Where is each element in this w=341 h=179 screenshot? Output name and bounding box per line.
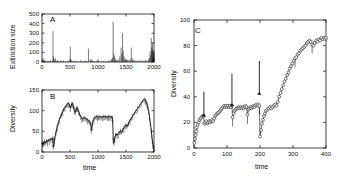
x-tick-label: 500 bbox=[65, 64, 76, 70]
panel-c: Diversity 0100200300400020406080100 C ti… bbox=[162, 2, 341, 179]
data-point bbox=[276, 100, 279, 103]
diversity-line bbox=[42, 99, 154, 148]
diversity-trend-line bbox=[194, 38, 326, 143]
panel-a: Extinction size 050010001500200001002003… bbox=[0, 6, 160, 74]
x-tick-label: 1500 bbox=[119, 154, 133, 160]
y-tick-label: 200 bbox=[29, 40, 40, 46]
data-point bbox=[280, 88, 283, 91]
arrow-head bbox=[257, 92, 261, 95]
x-tick-label: 0 bbox=[40, 64, 44, 70]
panel-c-xlabel: time bbox=[255, 163, 268, 170]
y-tick-label: 300 bbox=[29, 30, 40, 36]
data-markers bbox=[193, 36, 328, 144]
x-tick-label: 2000 bbox=[147, 64, 161, 70]
y-tick-label: 80 bbox=[183, 43, 190, 49]
y-tick-label: 400 bbox=[29, 21, 40, 27]
panel-a-tag: A bbox=[50, 15, 55, 24]
x-tick-label: 300 bbox=[288, 151, 299, 157]
x-tick-label: 1000 bbox=[91, 154, 105, 160]
y-tick-label: 0 bbox=[36, 59, 40, 65]
data-point bbox=[275, 104, 278, 107]
x-tick-label: 0 bbox=[40, 154, 44, 160]
y-tick-label: 100 bbox=[29, 108, 40, 114]
x-tick-label: 500 bbox=[65, 154, 76, 160]
data-point bbox=[194, 134, 197, 137]
y-tick-label: 60 bbox=[183, 68, 190, 74]
data-point bbox=[258, 104, 261, 107]
data-point bbox=[278, 95, 281, 98]
data-point bbox=[193, 141, 196, 144]
x-tick-label: 1000 bbox=[91, 64, 105, 70]
y-tick-label: 0 bbox=[36, 149, 40, 155]
x-tick-label: 100 bbox=[222, 151, 233, 157]
data-point bbox=[284, 77, 287, 80]
data-point bbox=[262, 118, 265, 121]
data-point bbox=[245, 106, 248, 109]
y-tick-label: 40 bbox=[183, 94, 190, 100]
data-point bbox=[287, 71, 290, 74]
extinction-spikes bbox=[43, 22, 154, 62]
panel-b: Diversity 0500100015002000050100150 B ti… bbox=[0, 80, 160, 179]
x-tick-label: 400 bbox=[321, 151, 332, 157]
x-tick-label: 1500 bbox=[119, 64, 133, 70]
panel-c-plot: 0100200300400020406080100 bbox=[162, 2, 341, 179]
figure-root: Extinction size 050010001500200001002003… bbox=[0, 0, 341, 179]
data-point bbox=[231, 116, 234, 119]
panel-b-plot: 0500100015002000050100150 bbox=[0, 80, 160, 179]
panel-a-ylabel: Extinction size bbox=[9, 24, 16, 69]
y-tick-label: 0 bbox=[187, 145, 191, 151]
data-point bbox=[279, 92, 282, 95]
y-tick-label: 50 bbox=[32, 128, 39, 134]
y-tick-label: 100 bbox=[29, 49, 40, 55]
y-tick-label: 20 bbox=[183, 119, 190, 125]
data-point bbox=[195, 130, 198, 133]
data-point bbox=[246, 113, 249, 116]
data-point bbox=[325, 36, 328, 39]
diversity-noise bbox=[42, 98, 154, 152]
x-tick-label: 200 bbox=[255, 151, 266, 157]
plot-frame bbox=[42, 14, 154, 62]
panel-b-ylabel: Diversity bbox=[9, 105, 16, 132]
panel-b-tag: B bbox=[50, 92, 55, 101]
data-point bbox=[259, 135, 262, 138]
data-point bbox=[194, 138, 197, 141]
panel-c-tag: C bbox=[195, 26, 201, 35]
data-point bbox=[282, 84, 285, 87]
y-tick-label: 150 bbox=[29, 87, 40, 93]
panel-a-plot: 05001000150020000100200300400500 bbox=[0, 6, 160, 74]
error-bars bbox=[233, 44, 313, 126]
y-tick-label: 100 bbox=[180, 17, 191, 23]
x-tick-label: 2000 bbox=[147, 154, 161, 160]
y-tick-label: 500 bbox=[29, 11, 40, 17]
x-tick-label: 0 bbox=[192, 151, 196, 157]
panel-b-xlabel: time bbox=[83, 164, 96, 171]
data-point bbox=[260, 129, 263, 132]
data-point bbox=[261, 122, 264, 125]
panel-c-ylabel: Diversity bbox=[170, 70, 177, 97]
